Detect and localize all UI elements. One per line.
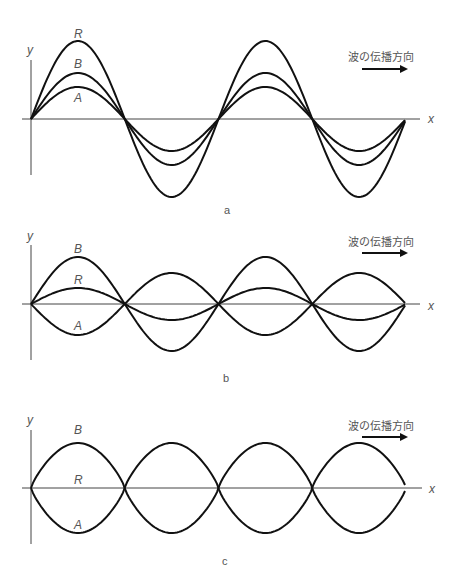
propagation-direction-label: 波の伝播方向 bbox=[348, 419, 414, 433]
panel-a: y x R B A 波の伝播方向 a bbox=[22, 27, 435, 216]
panel-c: y x B R A 波の伝播方向 c bbox=[22, 413, 436, 567]
label-R: R bbox=[74, 273, 83, 287]
x-axis-label: x bbox=[427, 112, 435, 126]
panel-b: y x B R A 波の伝播方向 b bbox=[22, 229, 435, 384]
propagation-direction-label: 波の伝播方向 bbox=[348, 235, 414, 249]
label-R: R bbox=[74, 473, 83, 487]
panel-caption: b bbox=[223, 372, 229, 384]
x-axis-label: x bbox=[427, 299, 435, 313]
label-A: A bbox=[73, 319, 82, 333]
label-B: B bbox=[74, 57, 82, 71]
label-B: B bbox=[74, 242, 82, 256]
label-A: A bbox=[73, 518, 82, 532]
arrow-head-icon bbox=[400, 65, 408, 73]
y-axis-label: y bbox=[26, 229, 34, 243]
x-axis-label: x bbox=[428, 482, 436, 496]
wave-superposition-diagram: y x R B A 波の伝播方向 a y x B R A 波の伝播方向 b y … bbox=[0, 0, 457, 578]
y-axis-label: y bbox=[26, 43, 34, 57]
arrow-head-icon bbox=[400, 433, 408, 441]
propagation-direction-label: 波の伝播方向 bbox=[348, 50, 414, 64]
panel-caption: c bbox=[222, 555, 228, 567]
label-A: A bbox=[73, 91, 82, 105]
label-B: B bbox=[74, 423, 82, 437]
y-axis-label: y bbox=[26, 413, 34, 427]
arrow-head-icon bbox=[400, 249, 408, 257]
label-R: R bbox=[74, 27, 83, 41]
panel-caption: a bbox=[224, 204, 231, 216]
